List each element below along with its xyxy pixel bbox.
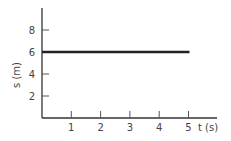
- x-ticks: 12345: [68, 111, 192, 133]
- y-axis-label: s (m): [11, 62, 22, 88]
- y-tick-label: 4: [29, 69, 35, 80]
- y-tick-label: 2: [29, 91, 35, 102]
- x-tick-label: 5: [185, 122, 191, 133]
- position-time-chart: 2468 12345 s (m) t (s): [0, 0, 231, 141]
- x-tick-label: 1: [68, 122, 74, 133]
- x-tick-label: 4: [156, 122, 162, 133]
- y-ticks: 2468: [29, 25, 49, 102]
- y-tick-label: 6: [29, 47, 35, 58]
- y-tick-label: 8: [29, 25, 35, 36]
- x-axis-label: t (s): [198, 122, 218, 133]
- x-tick-label: 2: [97, 122, 103, 133]
- x-tick-label: 3: [127, 122, 133, 133]
